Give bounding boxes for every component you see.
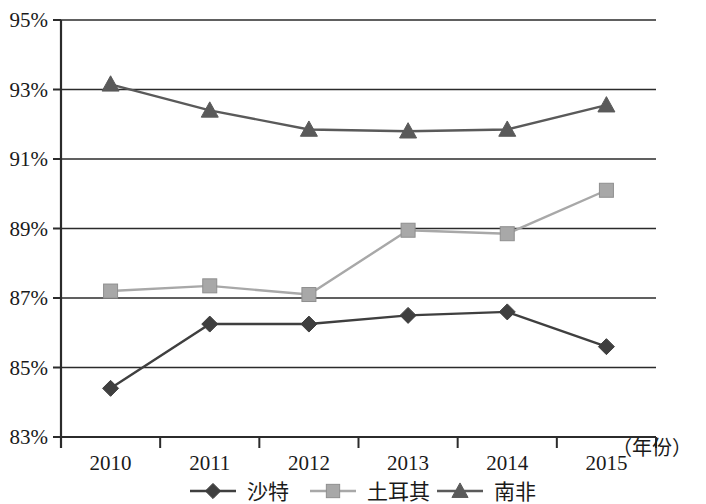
triangle-marker [102,76,119,91]
square-marker [326,484,339,497]
y-axis-tick-label: 87% [10,286,49,310]
chart-canvas: 83%85%87%89%91%93%95% 201020112012201320… [0,0,706,504]
x-axis-tick-label: 2013 [387,451,429,475]
diamond-marker [205,483,220,498]
triangle-marker [598,97,615,112]
x-axis-tick-label: 2011 [189,451,230,475]
diamond-marker [400,307,416,323]
line-chart: 83%85%87%89%91%93%95% 201020112012201320… [0,0,706,504]
series-line [111,312,607,388]
legend-item-3[interactable]: 南非 [437,480,536,504]
series-square [104,183,614,301]
y-axis-tick-label: 93% [10,78,49,102]
square-marker [500,227,514,241]
y-axis: 83%85%87%89%91%93%95% [10,8,62,449]
diamond-marker [202,316,218,332]
series-line [111,84,607,131]
diamond-marker [499,304,515,320]
legend-item-2[interactable]: 土耳其 [310,480,430,504]
square-marker [203,279,217,293]
y-axis-tick-label: 83% [10,425,49,449]
gridlines [61,20,656,437]
y-axis-tick-label: 95% [10,8,49,32]
square-marker [401,223,415,237]
x-axis: 201020112012201320142015 [61,437,656,475]
data-series [102,76,615,397]
diamond-marker [103,380,119,396]
series-line [111,190,607,294]
legend-label: 沙特 [247,480,289,504]
diamond-marker [598,339,614,355]
legend-label: 南非 [494,480,536,504]
y-axis-tick-label: 91% [10,147,49,171]
series-triangle [102,76,615,138]
diamond-marker [301,316,317,332]
x-axis-caption: （年份） [612,437,692,459]
legend-item-1[interactable]: 沙特 [190,480,289,504]
x-axis-tick-label: 2010 [90,451,132,475]
legend-label: 土耳其 [367,480,430,504]
chart-legend: 沙特土耳其南非 [190,480,536,504]
y-axis-tick-label: 89% [10,217,49,241]
square-marker [599,183,613,197]
y-axis-tick-label: 85% [10,356,49,380]
x-axis-tick-label: 2012 [288,451,330,475]
x-axis-tick-label: 2014 [486,451,529,475]
square-marker [104,284,118,298]
series-diamond [103,304,615,396]
square-marker [302,288,316,302]
